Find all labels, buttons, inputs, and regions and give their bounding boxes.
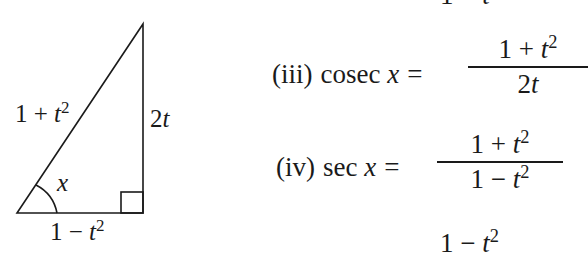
partial-top-var: t [482,0,490,10]
equation-iv-index: (iv) [276,152,315,182]
partial-top-denominator: 1 − t2 [440,0,499,9]
equation-iv-denominator: 1 − t2 [437,166,563,193]
equation-iii-index: (iii) [272,59,313,89]
right-angle-marker [121,192,143,213]
equation-iv-fraction-bar [437,161,563,163]
equation-iii-den-coef: 2 [517,69,531,99]
equation-iii-var: x [387,59,399,89]
equation-iv-den-base: 1 − [471,164,513,194]
hypotenuse-label: 1 + t2 [15,101,70,126]
equation-iii-num-exp: 2 [548,32,557,52]
adjacent-label: 1 − t2 [50,219,105,244]
equation-iii-denominator: 2t [468,71,588,98]
equation-iii-func: cosec [321,59,381,89]
equation-iii-den-var: t [531,69,539,99]
opposite-label-var: t [163,105,170,132]
opposite-label: 2t [150,106,169,131]
equation-iv-num-exp: 2 [520,127,529,147]
hypotenuse-label-base: 1 + [15,100,54,127]
partial-bottom-var: t [482,228,490,256]
partial-bottom-base: 1 − [440,228,482,256]
equation-iv-var: x [364,152,376,182]
equation-iii-fraction: 1 + t2 2t [468,36,588,98]
equation-iii-equals: = [407,59,422,89]
equation-iii: (iii)cosec x= [272,61,422,88]
equation-iv-numerator: 1 + t2 [437,131,563,158]
adjacent-label-exp: 2 [96,216,105,235]
equation-iv: (iv)sec x= [276,154,399,181]
equation-iv-fraction: 1 + t2 1 − t2 [437,131,563,193]
partial-top-base: 1 − [440,0,482,10]
angle-arc [36,185,57,213]
equation-iv-func: sec [323,152,357,182]
equation-iv-den-exp: 2 [520,162,529,182]
adjacent-label-base: 1 − [50,218,89,245]
hypotenuse-label-exp: 2 [61,98,70,117]
equation-iv-num-base: 1 + [471,129,513,159]
opposite-label-coef: 2 [150,105,163,132]
partial-bottom-exp: 2 [490,226,499,246]
equation-iii-num-base: 1 + [499,34,541,64]
equation-iii-fraction-bar [468,66,588,68]
equation-iii-numerator: 1 + t2 [468,36,588,63]
equation-iv-equals: = [384,152,399,182]
partial-bottom-numerator: 1 − t2 [440,230,499,256]
angle-label: x [57,170,68,195]
